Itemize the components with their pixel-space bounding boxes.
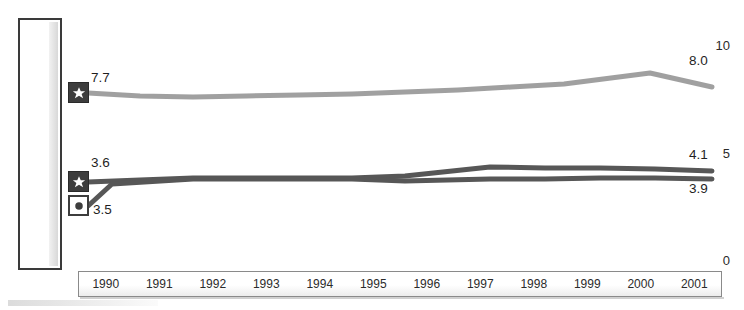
scan-artifact	[8, 300, 158, 306]
star-icon	[69, 172, 88, 191]
x-tick-1996: 1996	[400, 272, 454, 296]
x-tick-1991: 1991	[133, 272, 187, 296]
x-tick-1999: 1999	[561, 272, 615, 296]
value-label-dark-star-start: 3.6	[91, 156, 110, 170]
plot-area	[0, 0, 744, 310]
legend-marker-dark-circle[interactable]	[68, 195, 89, 216]
value-label-gray-start: 7.7	[91, 71, 110, 85]
value-label-dark-circle-start: 3.5	[93, 203, 112, 217]
legend-marker-gray-star[interactable]	[68, 82, 89, 103]
value-label-gray-end: 8.0	[689, 54, 708, 68]
x-tick-1997: 1997	[454, 272, 508, 296]
x-tick-1990: 1990	[79, 272, 133, 296]
value-label-dark-star-end: 4.1	[689, 148, 708, 162]
x-axis-year-strip: 1990 1991 1992 1993 1994 1995 1996 1997 …	[78, 271, 722, 297]
line-series-dark-circle	[88, 178, 712, 206]
x-tick-1993: 1993	[240, 272, 294, 296]
series-lines-svg	[0, 0, 744, 310]
x-axis-drop-shadow	[80, 297, 724, 299]
line-series-gray-star	[88, 73, 712, 97]
line-chart: 10 5 0	[0, 0, 744, 310]
x-tick-2001: 2001	[668, 272, 722, 296]
legend-marker-dark-star[interactable]	[68, 171, 89, 192]
value-label-dark-circle-end: 3.9	[689, 182, 708, 196]
x-tick-2000: 2000	[614, 272, 668, 296]
star-icon	[69, 83, 88, 102]
x-tick-1995: 1995	[347, 272, 401, 296]
circle-icon	[70, 197, 87, 214]
x-tick-1998: 1998	[507, 272, 561, 296]
x-tick-1994: 1994	[293, 272, 347, 296]
x-tick-1992: 1992	[186, 272, 240, 296]
